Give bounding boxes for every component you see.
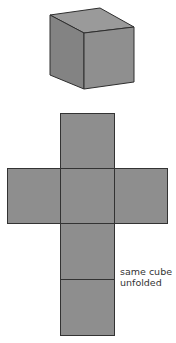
net-face-left: [8, 169, 61, 224]
net-face-back: [61, 280, 115, 336]
net-face-right: [115, 169, 168, 224]
net-face-front: [61, 169, 115, 224]
caption: same cube unfolded: [120, 266, 172, 288]
cube-front-face: [84, 27, 134, 89]
cube-net: [8, 114, 168, 336]
net-face-bottom: [61, 224, 115, 280]
net-face-top: [61, 114, 115, 169]
caption-line-2: unfolded: [120, 277, 172, 288]
cube-3d: [50, 8, 134, 89]
diagram-canvas: [0, 0, 176, 343]
caption-line-1: same cube: [120, 266, 172, 277]
